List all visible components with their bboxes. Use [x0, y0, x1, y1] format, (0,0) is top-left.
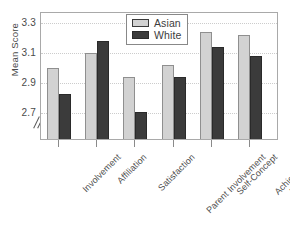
bar-white: [174, 77, 186, 139]
bar-asian: [85, 53, 97, 139]
x-tick-mark: [96, 140, 97, 147]
bar-chart-figure: Mean Score 3.3 3.1 2.9 2.7 Involvement A…: [0, 0, 290, 229]
y-tick-label: 2.7: [14, 107, 36, 118]
legend-label: Asian: [154, 17, 181, 29]
bar-group: [237, 13, 263, 139]
x-tick-mark: [58, 140, 59, 147]
x-tick-mark: [211, 140, 212, 147]
bar-asian: [123, 77, 135, 139]
x-tick-label-line: Parent Involvement: [204, 152, 267, 215]
bar-white: [250, 56, 262, 139]
x-tick-label: Involvement: [81, 152, 123, 194]
legend-swatch-icon: [132, 19, 149, 27]
bar-group: [46, 13, 72, 139]
legend-label: White: [154, 29, 181, 41]
y-tick-label: 3.1: [14, 47, 36, 58]
bar-white: [59, 94, 71, 140]
x-tick-mark: [173, 140, 174, 147]
bar-group: [84, 13, 110, 139]
bar-white: [97, 41, 109, 139]
legend: Asian White: [126, 14, 188, 45]
bar-asian: [238, 35, 250, 139]
bar-group: [199, 13, 225, 139]
y-axis-tick-labels: 3.3 3.1 2.9 2.7: [10, 0, 36, 229]
x-tick-label-line: Satisfaction: [156, 152, 197, 193]
x-tick-label: Parent Involvement: [204, 152, 267, 215]
bar-asian: [162, 65, 174, 139]
bar-asian: [200, 32, 212, 139]
y-tick-label: 3.3: [14, 17, 36, 28]
x-tick-label-line: Involvement: [81, 152, 123, 194]
bar-asian: [47, 68, 59, 139]
y-tick-label: 2.9: [14, 77, 36, 88]
legend-item-white: White: [132, 29, 181, 41]
bar-white: [135, 112, 147, 140]
legend-swatch-icon: [132, 31, 149, 39]
x-tick-label: Satisfaction: [156, 152, 197, 193]
x-tick-mark: [134, 140, 135, 147]
bar-white: [212, 47, 224, 139]
legend-item-asian: Asian: [132, 17, 181, 29]
x-tick-mark: [249, 140, 250, 147]
